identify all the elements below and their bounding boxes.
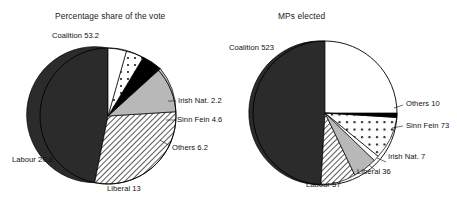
chart-1-label-liberal: Liberal 13 bbox=[107, 184, 141, 193]
chart-2-title: MPs elected bbox=[278, 11, 325, 21]
chart-2-label-liberal: Liberal 36 bbox=[357, 167, 391, 176]
slice-coalition-2 bbox=[249, 41, 325, 185]
chart-1-label-irish-nat: Irish Nat. 2.2 bbox=[178, 96, 222, 105]
chart-1-title: Percentage share of the vote bbox=[55, 11, 165, 21]
pie-2-slices bbox=[249, 41, 397, 185]
chart-2-label-labour: Labour 57 bbox=[306, 180, 341, 189]
chart-2-label-irish-nat: Irish Nat. 7 bbox=[388, 152, 425, 161]
pie-chart-figure: Percentage share of the vote MPs elected… bbox=[0, 0, 457, 208]
chart-1-label-others: Others 6.2 bbox=[172, 143, 208, 152]
chart-1-label-coalition: Coalition 53.2 bbox=[52, 31, 99, 40]
chart-2-label-others: Others 10 bbox=[406, 99, 440, 108]
chart-2-label-sinn-fein: Sinn Fein 73 bbox=[406, 121, 449, 130]
chart-2-label-coalition: Coalition 523 bbox=[229, 43, 274, 52]
chart-1-label-sinn-fein: Sinn Fein 4.6 bbox=[177, 115, 222, 124]
chart-1-label-labour: Labour 20.8 bbox=[12, 155, 53, 164]
slice-labour-1 bbox=[95, 112, 176, 184]
